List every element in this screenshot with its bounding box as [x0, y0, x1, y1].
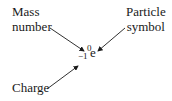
particle-symbol-label-line1: Particle	[126, 4, 166, 19]
mass-number-label: Mass number	[12, 4, 52, 34]
mass-number-label-line1: Mass	[12, 4, 52, 19]
mass-number-label-line2: number	[12, 19, 52, 34]
charge-value: −1	[78, 52, 88, 61]
particle-symbol-label-line2: symbol	[126, 19, 166, 34]
particle-symbol-label: Particle symbol	[126, 4, 166, 34]
arrow-charge	[47, 66, 78, 89]
particle-symbol-value: e	[90, 46, 96, 60]
arrow-particle-symbol	[98, 28, 125, 51]
nuclear-notation: 0 −1 e	[78, 44, 100, 64]
charge-label: Charge	[12, 80, 49, 95]
